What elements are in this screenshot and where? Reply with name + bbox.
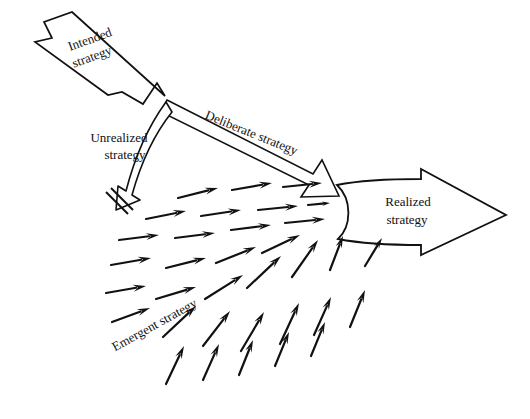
unrealized-label-line2: strategy — [104, 147, 146, 162]
realized-label-line1: Realized — [385, 194, 431, 209]
emergent-arrow-shaft — [308, 203, 325, 205]
unrealized-label-line1: Unrealized — [90, 130, 148, 145]
realized-label-line2: strategy — [386, 212, 428, 227]
diagram-canvas: Intended strategy Deliberate strategy Un… — [0, 0, 530, 419]
strategy-diagram: Intended strategy Deliberate strategy Un… — [0, 0, 530, 419]
